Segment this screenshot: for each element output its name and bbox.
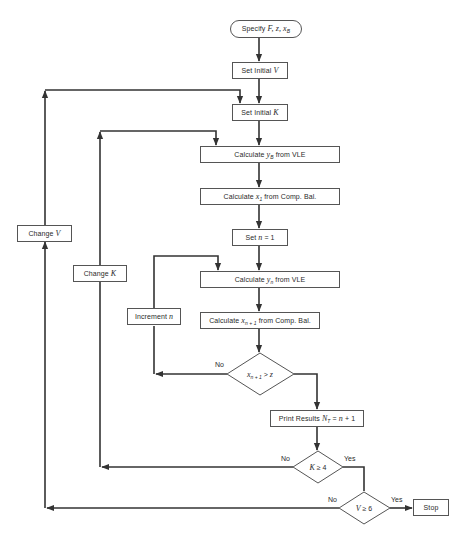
- calculate-yb-box: Calculate yB from VLE: [200, 146, 340, 163]
- change-k-box: Change K: [73, 265, 127, 282]
- print-results-box: Print Results NT = n + 1: [270, 410, 364, 427]
- calculate-x1-box: Calculate x1 from Comp. Bal.: [200, 188, 340, 205]
- decision-k-label: K ≥ 4: [310, 463, 327, 472]
- calculate-yn-box: Calculate yn from VLE: [200, 271, 340, 288]
- change-v-box: Change V: [17, 225, 72, 242]
- stop-box: Stop: [413, 499, 449, 516]
- edge-label-k-no: No: [281, 455, 290, 462]
- set-initial-k-box: Set Initial K: [232, 104, 288, 121]
- decision-x-label: xn + 1 > z: [247, 370, 273, 380]
- edge-label-v-yes: Yes: [391, 496, 402, 503]
- calculate-xn1-box: Calculate xn + 1 from Comp. Bal.: [200, 312, 320, 329]
- start-label: Specify F, z, xB: [242, 24, 290, 34]
- set-initial-v-box: Set Initial V: [232, 62, 288, 79]
- decision-v-label: V ≥ 6: [356, 504, 373, 513]
- start-terminator: Specify F, z, xB: [230, 20, 302, 38]
- increment-n-box: Increment n: [127, 308, 181, 325]
- edge-label-x-no: No: [215, 361, 224, 368]
- edge-label-v-no: No: [328, 496, 337, 503]
- set-n-box: Set n = 1: [232, 229, 288, 246]
- edge-label-k-yes: Yes: [344, 455, 355, 462]
